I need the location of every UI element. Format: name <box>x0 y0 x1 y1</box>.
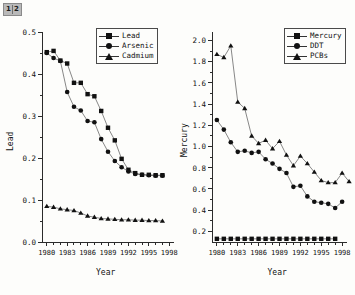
page-badge: 1 2 <box>3 3 22 16</box>
legend-item-ddt: DDT <box>287 41 342 51</box>
svg-text:1998: 1998 <box>334 249 351 257</box>
svg-text:1.4: 1.4 <box>192 100 206 109</box>
svg-text:1989: 1989 <box>271 249 288 257</box>
legend-label: Arsenic <box>119 41 154 51</box>
triangle-marker-icon <box>287 51 307 61</box>
circle-marker-icon <box>99 41 119 51</box>
legend-item-lead: Lead <box>99 31 154 41</box>
legend-item-arsenic: Arsenic <box>99 41 154 51</box>
svg-text:0.2: 0.2 <box>192 227 206 236</box>
triangle-marker-icon <box>99 51 119 61</box>
svg-text:0.2: 0.2 <box>22 154 36 163</box>
svg-text:0.1: 0.1 <box>22 196 36 205</box>
svg-text:1992: 1992 <box>120 249 137 257</box>
y-axis-label-lead: Lead <box>6 132 15 151</box>
svg-text:0.3: 0.3 <box>22 112 36 121</box>
svg-text:0.4: 0.4 <box>192 206 206 215</box>
legend-label: PCBs <box>307 51 328 61</box>
square-marker-icon <box>287 31 307 41</box>
legend-mercury: MercuryDDTPCBs <box>284 28 346 64</box>
svg-text:1998: 1998 <box>161 249 178 257</box>
svg-text:1983: 1983 <box>59 249 76 257</box>
x-axis-label-lead: Year <box>96 268 115 277</box>
svg-text:1992: 1992 <box>292 249 309 257</box>
legend-label: Mercury <box>307 31 342 41</box>
svg-text:1.2: 1.2 <box>192 121 206 130</box>
svg-text:1.6: 1.6 <box>192 79 206 88</box>
x-axis-label-mercury: Year <box>268 268 287 277</box>
chart-panel-mercury: 0.20.40.60.81.01.21.41.61.82.01980198319… <box>178 18 355 290</box>
svg-text:0.4: 0.4 <box>22 70 36 79</box>
svg-text:1980: 1980 <box>38 249 55 257</box>
svg-text:1.0: 1.0 <box>192 142 206 151</box>
page-badge-left: 1 <box>5 5 12 14</box>
svg-text:1986: 1986 <box>79 249 96 257</box>
svg-text:1.8: 1.8 <box>192 57 206 66</box>
svg-text:2.0: 2.0 <box>192 36 206 45</box>
svg-text:0.0: 0.0 <box>22 238 36 247</box>
svg-text:0.5: 0.5 <box>22 28 36 37</box>
page-badge-right: 2 <box>13 5 20 14</box>
legend-item-cadmium: Cadmium <box>99 51 154 61</box>
svg-text:1983: 1983 <box>229 249 246 257</box>
svg-text:0.8: 0.8 <box>192 164 206 173</box>
circle-marker-icon <box>287 41 307 51</box>
svg-text:1995: 1995 <box>313 249 330 257</box>
svg-text:1995: 1995 <box>140 249 157 257</box>
svg-text:1986: 1986 <box>250 249 267 257</box>
chart-panel-lead: 0.00.10.20.30.40.51980198319861989199219… <box>0 18 180 290</box>
legend-item-mercury: Mercury <box>287 31 342 41</box>
legend-label: Cadmium <box>119 51 154 61</box>
y-axis-label-mercury: Mercury <box>180 123 189 157</box>
legend-label: Lead <box>119 31 140 41</box>
legend-item-pcbs: PCBs <box>287 51 342 61</box>
square-marker-icon <box>99 31 119 41</box>
legend-lead: LeadArsenicCadmium <box>96 28 158 64</box>
figure-root: 1 2 0.00.10.20.30.40.5198019831986198919… <box>0 0 355 295</box>
svg-text:1980: 1980 <box>208 249 225 257</box>
svg-text:1989: 1989 <box>100 249 117 257</box>
svg-text:0.6: 0.6 <box>192 185 206 194</box>
legend-label: DDT <box>307 41 324 51</box>
